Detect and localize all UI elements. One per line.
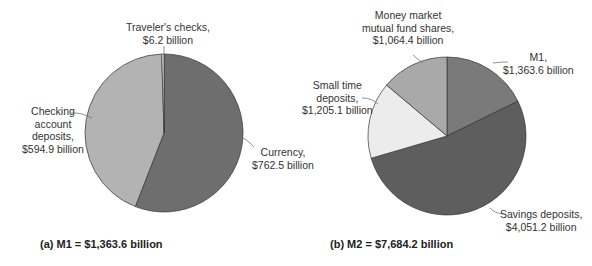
- label-small-time-deposits: Small time deposits, $1,205.1 billion: [302, 79, 373, 117]
- label-line: Currency,: [252, 146, 314, 159]
- label-money-market: Money market mutual fund shares, $1,064.…: [362, 9, 454, 47]
- label-currency: Currency, $762.5 billion: [252, 146, 314, 171]
- caption-m1: (a) M1 = $1,363.6 billion: [40, 238, 163, 250]
- label-line: Savings deposits,: [500, 208, 582, 221]
- label-line: deposits,: [302, 92, 373, 105]
- label-line: $6.2 billion: [126, 34, 210, 47]
- label-line: Small time: [302, 79, 373, 92]
- label-line: mutual fund shares,: [362, 22, 454, 35]
- label-line: Money market: [362, 9, 454, 22]
- label-line: $594.9 billion: [22, 143, 84, 156]
- caption-m2: (b) M2 = $7,684.2 billion: [330, 238, 453, 250]
- label-checking-deposits: Checking account deposits, $594.9 billio…: [22, 105, 84, 155]
- label-travelers-checks: Traveler's checks, $6.2 billion: [126, 21, 210, 46]
- label-line: Checking: [22, 105, 84, 118]
- label-line: M1,: [503, 51, 574, 64]
- label-line: deposits,: [22, 130, 84, 143]
- label-line: $4,051.2 billion: [500, 221, 582, 234]
- label-line: $1,205.1 billion: [302, 104, 373, 117]
- label-m1: M1, $1,363.6 billion: [503, 51, 574, 76]
- label-line: $1,363.6 billion: [503, 64, 574, 77]
- label-line: $1,064.4 billion: [362, 34, 454, 47]
- label-line: Traveler's checks,: [126, 21, 210, 34]
- label-line: account: [22, 118, 84, 131]
- label-line: $762.5 billion: [252, 159, 314, 172]
- pie-chart-m1: [85, 54, 243, 212]
- label-savings-deposits: Savings deposits, $4,051.2 billion: [500, 208, 582, 233]
- pie-chart-m2: [368, 57, 526, 215]
